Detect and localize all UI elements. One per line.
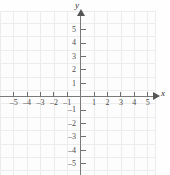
- y-axis-tick: [81, 69, 86, 70]
- y-axis-arrow-icon: [77, 9, 85, 16]
- x-axis-tick: [67, 92, 68, 97]
- y-tick-label: –1: [62, 106, 76, 114]
- x-axis-tick: [27, 92, 28, 97]
- gridline-horizontal: [0, 157, 156, 158]
- y-axis-tick: [81, 56, 86, 57]
- x-tick-label: –2: [47, 99, 61, 107]
- gridline-horizontal: [0, 63, 156, 64]
- gridline-horizontal: [0, 130, 156, 131]
- y-axis-tick: [81, 123, 86, 124]
- x-axis-tick: [107, 92, 108, 97]
- x-tick-label: 2: [101, 99, 115, 107]
- y-tick-label: 1: [62, 80, 76, 88]
- x-axis-label: x: [161, 88, 165, 98]
- y-tick-label: –2: [62, 120, 76, 128]
- y-tick-label: 2: [62, 66, 76, 74]
- x-axis-tick: [53, 92, 54, 97]
- coordinate-plane-figure: –5 –4 –3 –2 –1 1 2 3 4 5 5 4 3 2 1 –1 –2…: [0, 0, 170, 175]
- x-tick-label: 1: [87, 99, 101, 107]
- x-axis-tick: [13, 92, 14, 97]
- gridline-horizontal: [0, 117, 156, 118]
- y-axis-tick: [81, 43, 86, 44]
- y-tick-label: 3: [62, 53, 76, 61]
- gridline-horizontal: [0, 77, 156, 78]
- gridline-horizontal: [0, 144, 156, 145]
- y-axis-tick: [81, 150, 86, 151]
- x-axis-tick: [147, 92, 148, 97]
- y-tick-label: 5: [62, 26, 76, 34]
- y-axis-label: y: [75, 0, 79, 10]
- y-tick-label: –4: [62, 147, 76, 155]
- gridline-horizontal: [0, 36, 156, 37]
- x-tick-label: –4: [20, 99, 34, 107]
- gridline-horizontal: [0, 23, 156, 24]
- y-axis-tick: [81, 110, 86, 111]
- gridline-horizontal: [0, 50, 156, 51]
- plot-area: [0, 11, 156, 175]
- y-axis-tick: [81, 163, 86, 164]
- y-tick-label: –3: [62, 133, 76, 141]
- x-tick-label: 4: [127, 99, 141, 107]
- x-tick-label: 3: [114, 99, 128, 107]
- gridline-horizontal: [0, 90, 156, 91]
- x-tick-label: 5: [141, 99, 155, 107]
- x-tick-label: –3: [34, 99, 48, 107]
- x-tick-label: –5: [7, 99, 21, 107]
- y-axis-tick: [81, 136, 86, 137]
- y-tick-label: 4: [62, 39, 76, 47]
- gridline-horizontal: [0, 170, 156, 171]
- y-tick-label: –5: [62, 160, 76, 168]
- x-axis-tick: [134, 92, 135, 97]
- y-axis-tick: [81, 83, 86, 84]
- y-axis-tick: [81, 29, 86, 30]
- x-axis-tick: [120, 92, 121, 97]
- x-axis-tick: [94, 92, 95, 97]
- x-axis-tick: [40, 92, 41, 97]
